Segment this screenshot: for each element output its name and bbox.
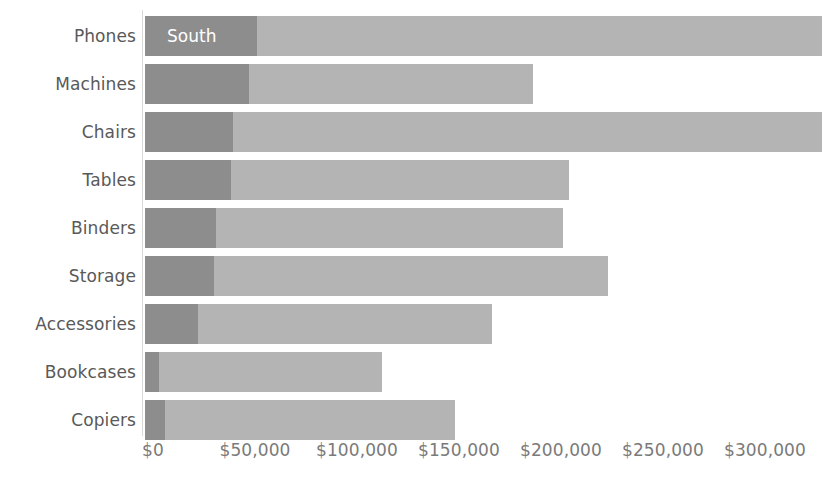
category-label-accessories: Accessories — [35, 304, 136, 344]
x-tick-label: $250,000 — [622, 440, 704, 460]
bar-segment-other[interactable] — [231, 160, 570, 200]
bar-segment-other[interactable] — [216, 208, 563, 248]
category-label-copiers: Copiers — [71, 400, 136, 440]
bar-row: Machines — [0, 64, 831, 104]
x-tick-label: $100,000 — [316, 440, 398, 460]
stacked-bar-tables[interactable] — [145, 160, 569, 200]
bar-segment-south[interactable] — [145, 352, 159, 392]
bar-segment-other[interactable] — [214, 256, 608, 296]
bar-segment-other[interactable] — [233, 112, 823, 152]
bar-row: Bookcases — [0, 352, 831, 392]
bar-segment-south[interactable] — [145, 64, 249, 104]
bar-row: Storage — [0, 256, 831, 296]
stacked-bar-binders[interactable] — [145, 208, 563, 248]
x-axis: $0$50,000$100,000$150,000$200,000$250,00… — [0, 440, 831, 470]
bar-row: Tables — [0, 160, 831, 200]
stacked-bar-bookcases[interactable] — [145, 352, 382, 392]
bar-row: PhonesSouth — [0, 16, 831, 56]
x-tick-label: $300,000 — [724, 440, 806, 460]
category-label-bookcases: Bookcases — [45, 352, 136, 392]
bar-segment-other[interactable] — [198, 304, 492, 344]
stacked-bar-accessories[interactable] — [145, 304, 492, 344]
bar-segment-south[interactable] — [145, 256, 214, 296]
category-label-machines: Machines — [55, 64, 136, 104]
bar-segment-other[interactable] — [165, 400, 455, 440]
category-label-binders: Binders — [71, 208, 136, 248]
bar-segment-south[interactable] — [145, 400, 165, 440]
stacked-bar-machines[interactable] — [145, 64, 533, 104]
bar-row: Accessories — [0, 304, 831, 344]
category-label-chairs: Chairs — [82, 112, 136, 152]
bar-segment-south[interactable] — [145, 304, 198, 344]
bar-segment-south[interactable] — [145, 16, 257, 56]
bar-segment-south[interactable] — [145, 112, 233, 152]
stacked-bar-chairs[interactable] — [145, 112, 822, 152]
bar-segment-south[interactable] — [145, 208, 216, 248]
category-label-storage: Storage — [69, 256, 136, 296]
bar-segment-south[interactable] — [145, 160, 231, 200]
stacked-bar-copiers[interactable] — [145, 400, 455, 440]
stacked-bar-storage[interactable] — [145, 256, 608, 296]
horizontal-stacked-bar-chart: PhonesSouthMachinesChairsTablesBindersSt… — [0, 0, 831, 479]
x-tick-label: $150,000 — [418, 440, 500, 460]
bar-row: Binders — [0, 208, 831, 248]
bar-row: Chairs — [0, 112, 831, 152]
x-tick-label: $0 — [142, 440, 164, 460]
bar-segment-other[interactable] — [249, 64, 533, 104]
bar-segment-other[interactable] — [257, 16, 822, 56]
x-tick-label: $50,000 — [220, 440, 291, 460]
stacked-bar-phones[interactable] — [145, 16, 822, 56]
x-tick-label: $200,000 — [520, 440, 602, 460]
bar-segment-other[interactable] — [159, 352, 381, 392]
category-label-phones: Phones — [74, 16, 136, 56]
bar-row: Copiers — [0, 400, 831, 440]
category-label-tables: Tables — [83, 160, 136, 200]
